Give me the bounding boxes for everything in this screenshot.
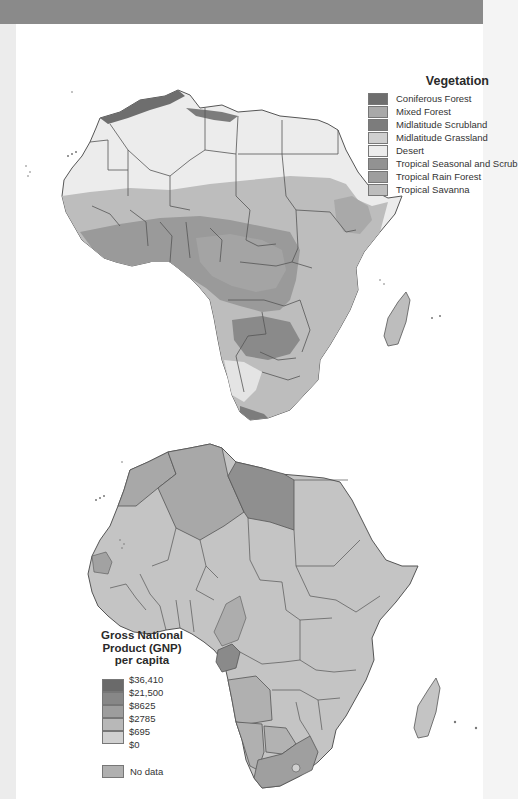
- gnp-swatch-3: [102, 705, 124, 718]
- atlas-page: Vegetation Coniferous Forest Mixed Fores…: [16, 24, 483, 799]
- gnp-color-scale: $36,410 $21,500 $8625 $2785 $695 $0: [92, 677, 192, 763]
- gnp-swatch-5: [102, 731, 124, 744]
- gnp-break-label: $0: [129, 739, 140, 750]
- gnp-title-line: Gross National: [92, 629, 192, 642]
- legend-item-desert: Desert: [368, 144, 499, 157]
- legend-label: Midlatitude Grassland: [396, 132, 488, 143]
- gnp-legend: Gross National Product (GNP) per capita …: [92, 629, 192, 778]
- legend-item-midlatitude-scrubland: Midlatitude Scrubland: [368, 118, 499, 131]
- legend-label: Desert: [396, 145, 424, 156]
- legend-item-tropical-rain-forest: Tropical Rain Forest: [368, 170, 499, 183]
- swatch-tropical-seasonal-scrub: [368, 158, 388, 170]
- gnp-break-label: $695: [129, 726, 150, 737]
- gnp-title-line: Product (GNP): [92, 642, 192, 655]
- swatch-midlatitude-scrubland: [368, 119, 388, 131]
- swatch-coniferous-forest: [368, 93, 388, 105]
- gnp-swatch-1: [102, 679, 124, 692]
- gnp-break-label: $8625: [129, 700, 155, 711]
- swatch-desert: [368, 145, 388, 157]
- swatch-tropical-rain-forest: [368, 171, 388, 183]
- gnp-no-data-swatch: [102, 765, 124, 778]
- gnp-swatch-2: [102, 692, 124, 705]
- swatch-tropical-savanna: [368, 184, 388, 196]
- gnp-no-data-label: No data: [130, 766, 163, 777]
- gnp-break-label: $36,410: [129, 674, 163, 685]
- legend-item-coniferous-forest: Coniferous Forest: [368, 92, 499, 105]
- legend-label: Midlatitude Scrubland: [396, 119, 487, 130]
- legend-item-tropical-seasonal-scrub: Tropical Seasonal and Scrub: [368, 157, 499, 170]
- legend-item-mixed-forest: Mixed Forest: [368, 105, 499, 118]
- legend-item-tropical-savanna: Tropical Savanna: [368, 183, 499, 196]
- scan-top-band: [0, 0, 483, 24]
- gnp-swatch-4: [102, 718, 124, 731]
- vegetation-legend: Vegetation Coniferous Forest Mixed Fores…: [368, 74, 499, 196]
- legend-label: Coniferous Forest: [396, 93, 472, 104]
- gnp-legend-title: Gross National Product (GNP) per capita: [92, 629, 192, 667]
- gnp-break-label: $21,500: [129, 687, 163, 698]
- swatch-midlatitude-grassland: [368, 132, 388, 144]
- legend-label: Mixed Forest: [396, 106, 451, 117]
- gnp-no-data-item: No data: [102, 765, 192, 778]
- gnp-break-label: $2785: [129, 713, 155, 724]
- legend-label: Tropical Savanna: [396, 184, 470, 195]
- swatch-mixed-forest: [368, 106, 388, 118]
- legend-item-midlatitude-grassland: Midlatitude Grassland: [368, 131, 499, 144]
- vegetation-legend-title: Vegetation: [368, 74, 499, 88]
- legend-label: Tropical Rain Forest: [396, 171, 481, 182]
- gnp-title-line: per capita: [92, 654, 192, 667]
- page-gutter: [0, 24, 16, 799]
- legend-label: Tropical Seasonal and Scrub: [396, 158, 518, 169]
